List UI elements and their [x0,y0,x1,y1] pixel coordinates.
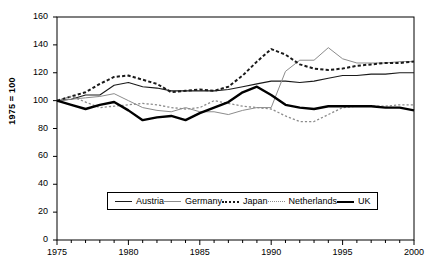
y-tick-label: 40 [22,179,48,188]
series-line-uk [57,87,414,120]
y-tick-label: 160 [22,12,48,21]
legend-item-germany[interactable]: Germany [164,197,222,206]
y-tick-label: 140 [22,40,48,49]
legend-label: Germany [185,197,222,206]
plot-area [0,0,438,266]
legend-item-japan[interactable]: Japan [222,197,268,206]
legend-swatch-icon [222,198,239,204]
legend-swatch-icon [164,198,181,204]
x-tick-label: 1980 [108,248,148,257]
chart-legend: AustriaGermanyJapanNetherlandsUK [107,192,378,210]
legend-item-uk[interactable]: UK [337,197,371,206]
x-tick-label: 1990 [251,248,291,257]
y-tick-label: 80 [22,124,48,133]
legend-label: Netherlands [289,197,338,206]
line-chart: 1975 = 100 AustriaGermanyJapanNetherland… [0,0,438,266]
legend-item-netherlands[interactable]: Netherlands [268,197,338,206]
y-tick-label: 60 [22,151,48,160]
y-tick-label: 120 [22,68,48,77]
y-tick-label: 20 [22,207,48,216]
legend-label: Japan [243,197,268,206]
x-tick-label: 1975 [37,248,77,257]
legend-item-austria[interactable]: Austria [115,197,164,206]
x-tick-label: 1995 [323,248,363,257]
y-tick-label: 0 [22,235,48,244]
legend-swatch-icon [337,198,354,204]
x-tick-label: 1985 [180,248,220,257]
legend-label: UK [358,197,371,206]
legend-swatch-icon [115,198,132,204]
series-line-netherlands [57,96,414,121]
x-tick-label: 2000 [394,248,434,257]
legend-swatch-icon [268,198,285,204]
legend-label: Austria [136,197,164,206]
y-tick-label: 100 [22,96,48,105]
y-axis-title: 1975 = 100 [7,61,17,141]
